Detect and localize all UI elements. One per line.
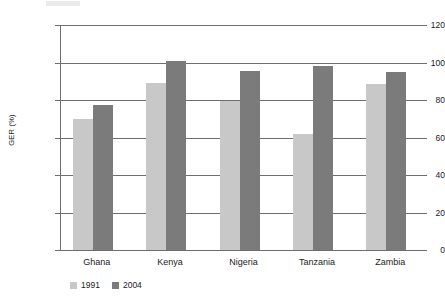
legend-swatch-icon-1991 (70, 282, 77, 289)
bar-zambia-2004 (386, 72, 406, 250)
bar-tanzania-2004 (313, 66, 333, 250)
x-label-tanzania: Tanzania (277, 258, 357, 267)
x-label-kenya: Kenya (130, 258, 210, 267)
gridline-120 (60, 25, 427, 26)
legend-item-1991[interactable]: 1991 (70, 281, 100, 290)
bar-ghana-1991 (73, 119, 93, 250)
bar-ghana-2004 (93, 105, 113, 250)
legend-label-1991: 1991 (81, 281, 100, 290)
legend-label-2004: 2004 (123, 281, 142, 290)
legend: 19912004 (70, 281, 142, 290)
gridline-100 (60, 63, 427, 64)
gridline-0 (60, 250, 427, 251)
x-label-nigeria: Nigeria (204, 258, 284, 267)
bar-nigeria-2004 (240, 71, 260, 250)
bar-nigeria-1991 (220, 101, 240, 250)
bar-tanzania-1991 (293, 134, 313, 250)
bar-kenya-2004 (166, 61, 186, 250)
x-label-zambia: Zambia (350, 258, 430, 267)
legend-item-2004[interactable]: 2004 (112, 281, 142, 290)
legend-swatch-icon-2004 (112, 282, 119, 289)
bar-kenya-1991 (146, 83, 166, 250)
plot-area (60, 25, 427, 250)
x-label-ghana: Ghana (57, 258, 137, 267)
cropped-title-remnant (46, 1, 80, 6)
bar-chart: GER (%) 020406080100120 GhanaKenyaNigeri… (0, 0, 445, 301)
y-axis-title: GER (%) (8, 100, 16, 160)
bar-zambia-1991 (366, 84, 386, 250)
